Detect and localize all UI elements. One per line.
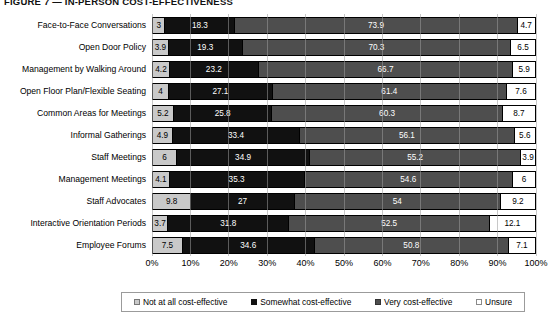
stacked-bar: 7.534.650.87.1: [152, 237, 536, 254]
x-tick-label: 30%: [258, 258, 276, 268]
bar-segment-very: 56.1: [299, 128, 513, 143]
bar-segment-unsure: 12.1: [489, 216, 535, 231]
bar-segment-very: 55.2: [309, 150, 520, 165]
bar-segment-very: 70.3: [242, 40, 511, 55]
stacked-bar: 5.225.860.38.7: [152, 105, 536, 122]
bar-segment-somewhat: 19.3: [168, 40, 242, 55]
x-tick-label: 80%: [450, 258, 468, 268]
bar-segment-somewhat: 18.3: [164, 18, 234, 33]
legend-item: Not at all cost-effective: [134, 297, 228, 307]
bar-segment-unsure: 7.1: [508, 238, 535, 253]
category-label: Open Floor Plan/Flexible Seating: [0, 86, 152, 96]
chart-row: Face-to-Face Conversations318.373.94.7: [0, 14, 544, 36]
bar-segment-unsure: 6: [512, 172, 535, 187]
chart-legend: Not at all cost-effectiveSomewhat cost-e…: [121, 292, 525, 312]
bar-segment-not-at-all: 3.7: [153, 216, 167, 231]
chart-row: Staff Advocates9.827549.2: [0, 190, 544, 212]
square-swatch-icon: [476, 299, 482, 305]
category-label: Interactive Orientation Periods: [0, 218, 152, 228]
bar-segment-somewhat: 25.8: [173, 106, 272, 121]
category-label: Employee Forums: [0, 240, 152, 250]
bar-segment-not-at-all: 4.2: [153, 62, 169, 77]
chart-row: Informal Gatherings4.933.456.15.6: [0, 124, 544, 146]
chart-row: Management Meetings4.135.354.66: [0, 168, 544, 190]
x-tick-label: 40%: [297, 258, 315, 268]
legend-label: Unsure: [485, 297, 512, 307]
stacked-bar: 3.919.370.36.5: [152, 39, 536, 56]
x-tick-label: 60%: [373, 258, 391, 268]
bar-segment-unsure: 9.2: [500, 194, 535, 209]
stacked-bar: 3.731.852.512.1: [152, 215, 536, 232]
bar-segment-not-at-all: 4: [153, 84, 168, 99]
chart-row: Common Areas for Meetings5.225.860.38.7: [0, 102, 544, 124]
bar-segment-somewhat: 35.3: [169, 172, 304, 187]
chart-row: Open Door Policy3.919.370.36.5: [0, 36, 544, 58]
square-swatch-icon: [134, 299, 140, 305]
bar-segment-somewhat: 27: [190, 194, 293, 209]
chart-row: Management by Walking Around4.223.266.75…: [0, 58, 544, 80]
bar-segment-unsure: 4.7: [517, 18, 535, 33]
bar-segment-very: 54.6: [304, 172, 513, 187]
category-label: Management by Walking Around: [0, 64, 152, 74]
x-tick-label: 20%: [220, 258, 238, 268]
bar-segment-not-at-all: 7.5: [153, 238, 182, 253]
bar-segment-very: 52.5: [288, 216, 488, 231]
bar-segment-not-at-all: 3: [153, 18, 164, 33]
category-label: Staff Advocates: [0, 196, 152, 206]
bar-segment-unsure: 8.7: [502, 106, 535, 121]
legend-label: Somewhat cost-effective: [260, 297, 351, 307]
category-label: Staff Meetings: [0, 152, 152, 162]
bar-segment-unsure: 3.9: [520, 150, 535, 165]
bar-segment-very: 60.3: [271, 106, 501, 121]
bar-segment-somewhat: 23.2: [169, 62, 258, 77]
legend-item: Somewhat cost-effective: [251, 297, 351, 307]
bar-segment-somewhat: 34.9: [176, 150, 309, 165]
bar-segment-not-at-all: 5.2: [153, 106, 173, 121]
category-label: Informal Gatherings: [0, 130, 152, 140]
bar-segment-somewhat: 34.6: [182, 238, 314, 253]
bar-segment-not-at-all: 4.1: [153, 172, 169, 187]
bar-segment-not-at-all: 9.8: [153, 194, 190, 209]
x-tick-label: 100%: [524, 258, 547, 268]
page-title: FIGURE 7 — IN-PERSON COST-EFFECTIVENESS: [4, 0, 233, 7]
x-tick-label: 90%: [489, 258, 507, 268]
stacked-bar: 4.135.354.66: [152, 171, 536, 188]
bar-segment-very: 54: [294, 194, 500, 209]
bar-segment-unsure: 5.9: [512, 62, 535, 77]
stacked-bar: 4.223.266.75.9: [152, 61, 536, 78]
legend-item: Unsure: [476, 297, 512, 307]
x-axis: 0%10%20%30%40%50%60%70%80%90%100%: [152, 258, 536, 272]
chart-plot-area: Face-to-Face Conversations318.373.94.7Op…: [0, 14, 544, 257]
bar-segment-unsure: 5.6: [514, 128, 535, 143]
category-label: Face-to-Face Conversations: [0, 20, 152, 30]
bar-segment-somewhat: 33.4: [172, 128, 300, 143]
category-label: Management Meetings: [0, 174, 152, 184]
bar-segment-unsure: 6.5: [510, 40, 535, 55]
chart-row: Employee Forums7.534.650.87.1: [0, 234, 544, 256]
category-label: Open Door Policy: [0, 42, 152, 52]
chart-row: Staff Meetings634.955.23.9: [0, 146, 544, 168]
stacked-bar: 318.373.94.7: [152, 17, 536, 34]
stacked-bar: 9.827549.2: [152, 193, 536, 210]
bar-segment-very: 73.9: [234, 18, 516, 33]
stacked-bar: 427.161.47.6: [152, 83, 536, 100]
stacked-bar: 4.933.456.15.6: [152, 127, 536, 144]
square-swatch-icon: [375, 299, 381, 305]
bar-segment-not-at-all: 4.9: [153, 128, 172, 143]
x-tick-label: 70%: [412, 258, 430, 268]
x-tick-label: 0%: [145, 258, 158, 268]
stacked-bar: 634.955.23.9: [152, 149, 536, 166]
bar-segment-not-at-all: 6: [153, 150, 176, 165]
legend-label: Not at all cost-effective: [143, 297, 228, 307]
bar-segment-very: 61.4: [272, 84, 506, 99]
legend-item: Very cost-effective: [375, 297, 452, 307]
legend-label: Very cost-effective: [384, 297, 452, 307]
bar-rows-container: Face-to-Face Conversations318.373.94.7Op…: [0, 14, 544, 256]
bar-segment-very: 50.8: [314, 238, 508, 253]
chart-row: Interactive Orientation Periods3.731.852…: [0, 212, 544, 234]
bar-segment-somewhat: 31.8: [167, 216, 288, 231]
bar-segment-unsure: 7.6: [506, 84, 535, 99]
x-tick-label: 10%: [181, 258, 199, 268]
bar-segment-not-at-all: 3.9: [153, 40, 168, 55]
category-label: Common Areas for Meetings: [0, 108, 152, 118]
